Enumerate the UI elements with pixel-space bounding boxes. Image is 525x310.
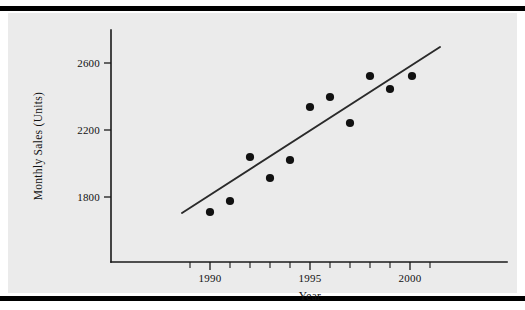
top-rule [0,6,525,11]
data-point [326,93,334,101]
data-point [386,85,394,93]
data-point [408,72,416,80]
data-point [246,153,254,161]
plot-area: 2600 2200 1800 1990 1995 2000 Year Month… [8,13,517,293]
data-point [206,208,214,216]
bottom-rule [0,296,525,301]
data-points [206,72,416,216]
y-tick-label-2200: 2200 [58,124,100,136]
y-axis-title: Monthly Sales (Units) [32,92,44,201]
data-point [366,72,374,80]
data-point [226,197,234,205]
y-tick-label-2600: 2600 [58,57,100,69]
x-tick-label-1990: 1990 [199,272,222,284]
chart-figure: 2600 2200 1800 1990 1995 2000 Year Month… [0,0,525,310]
x-tick-label-2000: 2000 [399,272,422,284]
trend-line [182,47,440,213]
data-point [306,103,314,111]
x-tick-label-1995: 1995 [299,272,322,284]
y-tick-label-1800: 1800 [58,191,100,203]
data-point [286,156,294,164]
x-axis-ticks [190,262,430,270]
data-point [346,119,354,127]
plot-panel: 2600 2200 1800 1990 1995 2000 Year Month… [8,13,517,293]
data-point [266,174,274,182]
y-axis-ticks [104,63,111,197]
chart-canvas [8,13,517,293]
x-axis-title: Year [299,290,321,302]
